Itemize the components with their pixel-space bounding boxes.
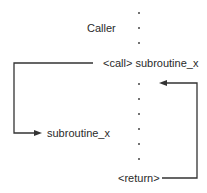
- return-arrow: [162, 83, 197, 178]
- instruction-dots: [138, 12, 140, 160]
- subroutine-label: subroutine_x: [47, 127, 110, 139]
- caller-label: Caller: [87, 22, 116, 34]
- call-arrow: [14, 63, 93, 133]
- call-instruction-label: <call> subroutine_x: [103, 57, 198, 69]
- return-arrowhead: [159, 80, 167, 86]
- return-instruction-label: <return>: [118, 172, 160, 184]
- call-arrowhead: [34, 130, 42, 136]
